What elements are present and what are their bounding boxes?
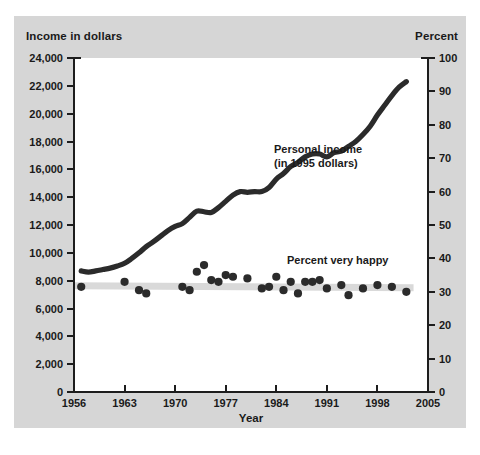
income-line-path xyxy=(81,82,406,272)
happiness-data-point xyxy=(388,283,396,291)
right-tick-label: 10 xyxy=(439,353,451,364)
plot-area: Personal income (in 1995 dollars) Percen… xyxy=(74,58,428,392)
happiness-data-point xyxy=(323,284,331,292)
right-tick-label: 60 xyxy=(439,186,451,197)
annotation-income-line2: (in 1995 dollars) xyxy=(274,157,362,171)
right-tick-label: 0 xyxy=(439,387,445,398)
left-tick-label: 16,000 xyxy=(29,164,63,175)
right-tick-mark xyxy=(428,358,435,360)
left-tick-label: 0 xyxy=(57,387,63,398)
left-tick-mark xyxy=(67,280,74,282)
x-tick-mark xyxy=(124,385,126,392)
happiness-data-point xyxy=(185,286,193,294)
chart-canvas xyxy=(74,58,428,392)
happiness-data-point xyxy=(243,274,251,282)
left-tick-mark xyxy=(67,85,74,87)
left-axis-header: Income in dollars xyxy=(26,30,122,42)
right-tick-label: 30 xyxy=(439,286,451,297)
x-tick-label: 1998 xyxy=(365,398,389,409)
happiness-data-point xyxy=(316,276,324,284)
left-tick-mark xyxy=(67,168,74,170)
happiness-data-point xyxy=(142,289,150,297)
x-tick-mark xyxy=(174,385,176,392)
happiness-data-point xyxy=(344,291,352,299)
happiness-data-point xyxy=(193,268,201,276)
left-tick-mark xyxy=(67,113,74,115)
happiness-data-point xyxy=(135,286,143,294)
happiness-data-point xyxy=(222,271,230,279)
right-tick-label: 100 xyxy=(439,53,457,64)
right-tick-mark xyxy=(428,57,435,59)
happiness-data-point xyxy=(359,284,367,292)
right-tick-mark xyxy=(428,124,435,126)
happiness-data-point xyxy=(200,261,208,269)
right-tick-label: 90 xyxy=(439,86,451,97)
right-tick-label: 20 xyxy=(439,320,451,331)
right-tick-label: 50 xyxy=(439,220,451,231)
left-tick-label: 4,000 xyxy=(35,331,63,342)
happiness-data-point xyxy=(207,276,215,284)
x-tick-label: 1991 xyxy=(315,398,339,409)
left-tick-mark xyxy=(67,391,74,393)
happiness-data-point xyxy=(178,283,186,291)
right-tick-mark xyxy=(428,291,435,293)
left-tick-label: 12,000 xyxy=(29,220,63,231)
left-tick-mark xyxy=(67,252,74,254)
left-tick-mark xyxy=(67,141,74,143)
right-tick-mark xyxy=(428,191,435,193)
annotation-percent-very-happy: Percent very happy xyxy=(287,254,389,268)
right-tick-label: 80 xyxy=(439,119,451,130)
happiness-data-point xyxy=(308,278,316,286)
left-tick-label: 20,000 xyxy=(29,108,63,119)
happiness-data-point xyxy=(337,281,345,289)
x-tick-label: 1970 xyxy=(163,398,187,409)
x-tick-mark xyxy=(376,385,378,392)
x-tick-label: 1956 xyxy=(62,398,86,409)
left-tick-label: 6,000 xyxy=(35,303,63,314)
top-axis-stub-left xyxy=(73,57,81,59)
x-tick-mark xyxy=(275,385,277,392)
right-tick-mark xyxy=(428,324,435,326)
left-tick-label: 8,000 xyxy=(35,275,63,286)
left-tick-mark xyxy=(67,363,74,365)
x-tick-label: 2005 xyxy=(416,398,440,409)
x-tick-label: 1963 xyxy=(112,398,136,409)
left-tick-label: 14,000 xyxy=(29,192,63,203)
right-tick-mark xyxy=(428,257,435,259)
left-tick-label: 24,000 xyxy=(29,53,63,64)
left-tick-mark xyxy=(67,196,74,198)
left-tick-mark xyxy=(67,308,74,310)
right-tick-label: 70 xyxy=(439,153,451,164)
left-tick-label: 22,000 xyxy=(29,80,63,91)
x-tick-mark xyxy=(225,385,227,392)
chart-figure: Income in dollars Percent Personal incom… xyxy=(0,0,480,455)
happiness-data-point xyxy=(279,286,287,294)
happiness-data-point xyxy=(272,273,280,281)
happiness-data-point xyxy=(402,288,410,296)
right-tick-mark xyxy=(428,391,435,393)
happiness-data-point xyxy=(258,284,266,292)
right-tick-label: 40 xyxy=(439,253,451,264)
happiness-data-point xyxy=(229,273,237,281)
happiness-data-point xyxy=(120,278,128,286)
left-tick-mark xyxy=(67,224,74,226)
annotation-income-line1: Personal income xyxy=(274,143,362,157)
happiness-data-point xyxy=(77,283,85,291)
x-tick-label: 1984 xyxy=(264,398,288,409)
left-tick-label: 18,000 xyxy=(29,136,63,147)
happiness-data-point xyxy=(287,278,295,286)
right-tick-mark xyxy=(428,157,435,159)
x-tick-label: 1977 xyxy=(213,398,237,409)
right-axis-header: Percent xyxy=(415,30,458,42)
happiness-data-point xyxy=(265,283,273,291)
happiness-data-point xyxy=(301,278,309,286)
happiness-data-point xyxy=(373,281,381,289)
left-tick-mark xyxy=(67,335,74,337)
happiness-data-point xyxy=(294,289,302,297)
left-tick-label: 10,000 xyxy=(29,247,63,258)
right-tick-mark xyxy=(428,90,435,92)
x-tick-mark xyxy=(326,385,328,392)
annotation-personal-income: Personal income (in 1995 dollars) xyxy=(274,143,362,171)
left-tick-mark xyxy=(67,57,74,59)
right-tick-mark xyxy=(428,224,435,226)
